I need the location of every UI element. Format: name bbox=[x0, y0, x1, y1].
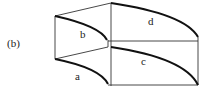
block-diagram: (b) b a d c bbox=[0, 0, 214, 90]
top-left-edge bbox=[55, 3, 111, 16]
inner-diagonal-edge bbox=[55, 47, 108, 59]
region-label-d: d bbox=[148, 15, 154, 27]
region-label-a: a bbox=[75, 70, 80, 82]
curve-d bbox=[111, 3, 198, 37]
curve-c bbox=[111, 47, 198, 85]
region-label-b: b bbox=[80, 28, 86, 40]
panel-label: (b) bbox=[7, 37, 20, 50]
curve-a bbox=[55, 59, 108, 84]
region-label-c: c bbox=[141, 55, 146, 67]
